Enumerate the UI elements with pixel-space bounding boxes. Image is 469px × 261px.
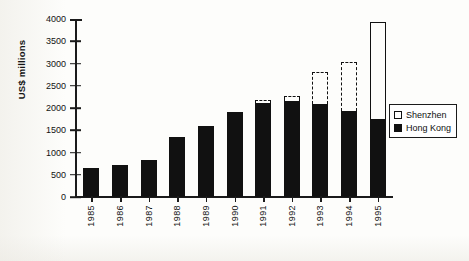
- x-axis-tick-label: 1994: [344, 205, 354, 227]
- y-axis-tick: [70, 196, 81, 198]
- x-axis-tick-label: 1986: [115, 205, 125, 227]
- bar-segment-hong-kong: [198, 126, 214, 197]
- bar-segment-hong-kong: [169, 137, 185, 197]
- x-axis-tick: [320, 196, 322, 202]
- x-axis-tick-label: 1995: [373, 205, 383, 227]
- y-axis-title: US$ millions: [16, 15, 27, 125]
- bar-segment-shenzhen: [255, 100, 271, 104]
- bar-segment-hong-kong: [284, 101, 300, 197]
- bar-segment-hong-kong: [341, 111, 357, 197]
- x-axis-tick: [177, 196, 179, 202]
- bar-segment-hong-kong: [370, 119, 386, 197]
- legend-item-shenzhen: Shenzhen: [394, 108, 451, 121]
- bar-segment-hong-kong: [255, 103, 271, 197]
- legend-item-hong-kong: Hong Kong: [394, 121, 451, 134]
- y-axis-tick: [70, 152, 81, 154]
- legend-label-hong-kong: Hong Kong: [406, 123, 451, 133]
- x-axis-tick-label: 1985: [86, 205, 96, 227]
- y-axis-tick-label: 3500: [32, 36, 66, 46]
- x-axis-tick: [120, 196, 122, 202]
- x-axis-tick: [263, 196, 265, 202]
- x-axis-tick: [206, 196, 208, 202]
- y-axis-tick: [70, 40, 81, 42]
- legend-swatch-filled-icon: [394, 124, 402, 132]
- x-axis-tick-label: 1989: [201, 205, 211, 227]
- x-axis-tick-label: 1993: [315, 205, 325, 227]
- x-axis-tick: [91, 196, 93, 202]
- bar-chart: US$ millions 050010001500200025003000350…: [0, 0, 469, 261]
- x-axis-tick-label: 1988: [172, 205, 182, 227]
- x-axis-tick-label: 1991: [258, 205, 268, 227]
- y-axis-tick-label: 3000: [32, 59, 66, 69]
- legend-label-shenzhen: Shenzhen: [406, 110, 447, 120]
- x-axis-tick: [349, 196, 351, 202]
- bar-segment-hong-kong: [312, 104, 328, 197]
- x-axis-tick-label: 1992: [287, 205, 297, 227]
- plot-area: [77, 19, 392, 197]
- y-axis-tick-label: 2500: [32, 81, 66, 91]
- bar-segment-hong-kong: [112, 165, 128, 197]
- y-axis-tick: [70, 85, 81, 87]
- y-axis-tick-label: 4000: [32, 14, 66, 24]
- y-axis-tick-label: 500: [32, 170, 66, 180]
- bar-segment-shenzhen: [284, 96, 300, 102]
- legend: Shenzhen Hong Kong: [389, 104, 457, 138]
- x-axis-tick: [292, 196, 294, 202]
- y-axis-tick: [70, 63, 81, 65]
- y-axis-tick-label: 0: [32, 192, 66, 202]
- bar-segment-hong-kong: [141, 160, 157, 197]
- x-axis-tick: [235, 196, 237, 202]
- x-axis-tick-label: 1990: [230, 205, 240, 227]
- y-axis-tick: [70, 107, 81, 109]
- bar-segment-hong-kong: [83, 168, 99, 197]
- bar-segment-shenzhen: [312, 72, 328, 105]
- y-axis-tick: [70, 129, 81, 131]
- y-axis-tick-label: 1500: [32, 125, 66, 135]
- bar-segment-shenzhen: [341, 62, 357, 111]
- x-axis-tick-label: 1987: [144, 205, 154, 227]
- y-axis-tick-labels: 05001000150020002500300035004000: [26, 0, 66, 261]
- bar-segment-hong-kong: [227, 112, 243, 197]
- y-axis-tick: [70, 174, 81, 176]
- bar-segment-shenzhen: [370, 22, 386, 119]
- legend-swatch-open-icon: [394, 111, 402, 119]
- x-axis-tick: [378, 196, 380, 202]
- y-axis-tick-label: 2000: [32, 103, 66, 113]
- x-axis-tick: [149, 196, 151, 202]
- y-axis-tick-label: 1000: [32, 148, 66, 158]
